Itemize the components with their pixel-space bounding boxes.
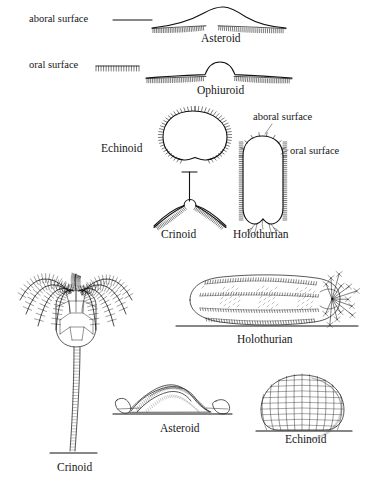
oral-surface-key-swatch xyxy=(96,66,139,71)
asteroid-drawing xyxy=(113,385,232,414)
echinoid-section xyxy=(158,106,231,163)
asteroid-section xyxy=(152,7,286,33)
crinoid-drawing xyxy=(18,273,133,453)
crinoid-tube-feet-left xyxy=(155,206,186,229)
ophiuroid-section xyxy=(146,62,292,83)
holothurian-drawing xyxy=(176,272,360,328)
crinoid-tube-feet-right xyxy=(194,206,225,229)
holothurian-section xyxy=(239,124,288,235)
crinoid-stalk-segments xyxy=(71,350,80,450)
echinoderm-figure-plate xyxy=(0,0,382,483)
echinoid-drawing xyxy=(256,374,352,440)
crinoid-section xyxy=(154,172,226,230)
